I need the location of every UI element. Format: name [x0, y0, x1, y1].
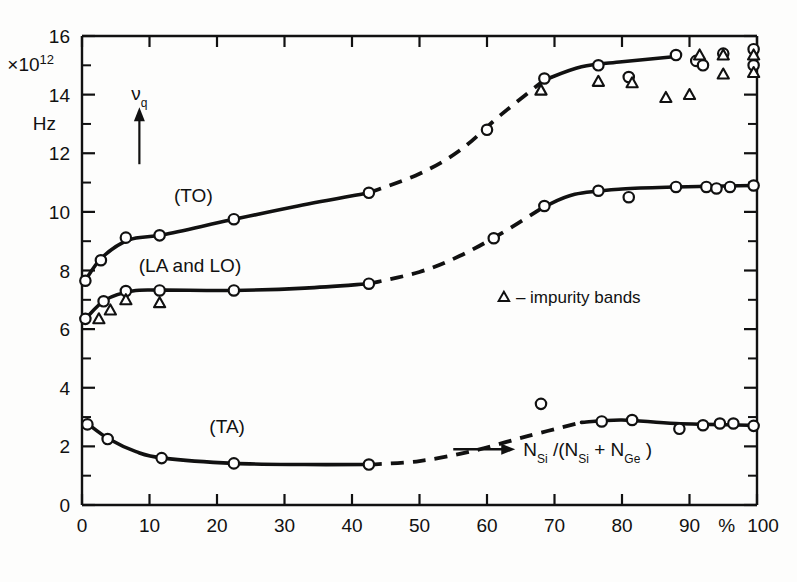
data-point-circle: [624, 192, 634, 202]
data-point-circle: [698, 60, 708, 70]
x-tick-label: 0: [77, 515, 88, 536]
data-point-circle: [96, 255, 106, 265]
y-tick-label: 6: [59, 319, 70, 340]
figure-root: 02468101214160102030405060708090100%×101…: [0, 0, 797, 582]
data-point-circle: [229, 214, 239, 224]
y-tick-label: 16: [49, 26, 70, 47]
data-point-circle: [489, 233, 499, 243]
data-point-triangle: [593, 76, 604, 86]
x-tick-label: 70: [544, 515, 565, 536]
y-tick-label: 2: [59, 436, 70, 457]
x-tick-label: 90: [679, 515, 700, 536]
data-point-triangle: [93, 313, 104, 323]
x-axis-title: NSi /(NSi + NGe ): [523, 439, 652, 466]
y-exponent-label: ×1012: [7, 52, 54, 76]
x-tick-label: 30: [274, 515, 295, 536]
curve-dashed-laandlo: [369, 207, 545, 284]
x-axis-title-arrow-head: [501, 444, 515, 455]
data-point-circle: [671, 182, 681, 192]
data-point-circle: [364, 188, 374, 198]
x-tick-label: 80: [611, 515, 632, 536]
data-point-circle: [482, 125, 492, 135]
data-point-circle: [627, 415, 637, 425]
chart-figure: 02468101214160102030405060708090100%×101…: [0, 0, 797, 582]
x-unit-percent: %: [718, 515, 735, 536]
data-point-circle: [156, 453, 166, 463]
data-point-circle: [229, 458, 239, 468]
curve-dashed-to: [369, 80, 545, 193]
data-point-triangle: [694, 49, 705, 59]
data-point-circle: [674, 424, 684, 434]
legend-label: – impurity bands: [516, 288, 641, 307]
x-tick-label: 100: [747, 515, 779, 536]
data-point-circle: [102, 434, 112, 444]
data-point-triangle: [718, 69, 729, 79]
data-point-circle: [364, 278, 374, 288]
data-point-circle: [229, 285, 239, 295]
data-point-circle: [154, 285, 164, 295]
x-tick-label: 40: [341, 515, 362, 536]
nu-q-annotation-label: νq: [131, 83, 147, 110]
data-point-circle: [725, 182, 735, 192]
data-point-circle: [98, 296, 108, 306]
y-axis-unit-label: Hz: [33, 113, 56, 134]
data-point-triangle: [154, 297, 165, 307]
data-point-circle: [539, 201, 549, 211]
y-tick-label: 10: [49, 202, 70, 223]
y-tick-label: 14: [49, 85, 71, 106]
x-tick-label: 60: [476, 515, 497, 536]
data-point-circle: [80, 314, 90, 324]
phonon-frequency-chart: 02468101214160102030405060708090100%×101…: [0, 0, 797, 582]
data-point-circle: [364, 459, 374, 469]
data-point-circle: [748, 421, 758, 431]
data-point-circle: [597, 416, 607, 426]
x-tick-label: 10: [139, 515, 160, 536]
data-point-circle: [536, 399, 546, 409]
curve-label-ta: (TA): [209, 416, 245, 437]
x-tick-label: 50: [409, 515, 430, 536]
data-point-circle: [715, 418, 725, 428]
data-point-circle: [698, 420, 708, 430]
curve-label-laandlo: (LA and LO): [139, 255, 241, 276]
y-tick-label: 12: [49, 143, 70, 164]
legend-triangle-icon: [499, 292, 509, 301]
y-tick-label: 4: [59, 378, 70, 399]
data-point-circle: [80, 276, 90, 286]
data-point-triangle: [660, 92, 671, 102]
data-point-circle: [154, 230, 164, 240]
data-point-triangle: [684, 89, 695, 99]
data-point-circle: [701, 182, 711, 192]
data-point-circle: [728, 418, 738, 428]
x-tick-label: 20: [206, 515, 227, 536]
data-point-circle: [593, 60, 603, 70]
y-tick-label: 0: [59, 495, 70, 516]
data-point-circle: [539, 73, 549, 83]
curve-label-to: (TO): [174, 185, 213, 206]
data-point-circle: [748, 180, 758, 190]
data-point-circle: [593, 186, 603, 196]
y-tick-label: 8: [59, 261, 70, 282]
data-point-circle: [711, 183, 721, 193]
data-point-circle: [82, 419, 92, 429]
data-point-circle: [671, 50, 681, 60]
curve-tail-to: [544, 57, 676, 80]
data-point-circle: [121, 232, 131, 242]
